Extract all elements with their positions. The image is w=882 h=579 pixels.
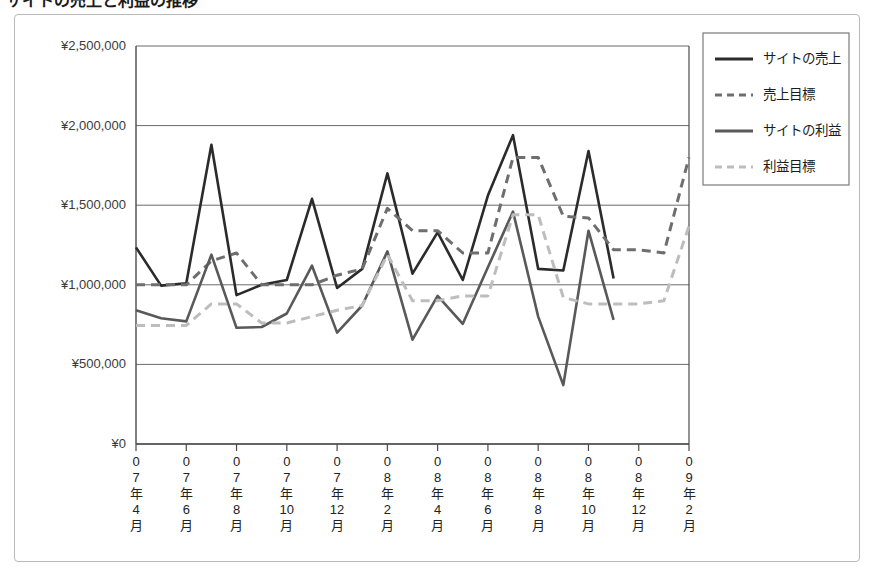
x-axis-tick-label-char: 0 [283,454,290,469]
x-axis-tick-label-char: 8 [384,470,391,485]
x-axis-tick-label-char: 年 [331,486,344,501]
x-axis-tick-label-char: 4 [434,502,441,517]
x-axis-tick-label-char: 10 [280,502,294,517]
x-axis-tick-label-char: 年 [532,486,545,501]
x-axis-tick-label-char: 月 [582,518,595,533]
page-title: サイトの売上と利益の推移 [6,0,198,11]
x-axis-tick-label-char: 0 [384,454,391,469]
x-axis-tick-label-char: 年 [130,486,143,501]
x-axis-tick-label-char: 12 [631,502,645,517]
x-axis-tick-label-char: 0 [685,454,692,469]
x-axis-tick-label-char: 0 [535,454,542,469]
legend-label-1: 売上目標 [763,87,816,102]
y-axis-tick-label: ¥0 [111,436,126,451]
x-axis-tick-label-char: 10 [581,502,595,517]
x-axis-tick-label-char: 2 [685,502,692,517]
y-axis-tick-label: ¥1,500,000 [60,197,126,212]
x-axis-tick-label-char: 0 [183,454,190,469]
x-axis-tick-label-char: 9 [685,470,692,485]
legend-label-0: サイトの売上 [763,51,841,66]
x-axis-tick-label: 08年12月 [631,454,645,533]
x-axis-tick-label-char: 7 [233,470,240,485]
x-axis-tick-label-char: 年 [280,486,293,501]
x-axis-tick-label-char: 月 [280,518,293,533]
x-axis-tick-label-char: 年 [683,486,696,501]
x-axis-tick-label: 09年2月 [683,454,696,533]
y-axis-tick-label: ¥500,000 [71,356,126,371]
x-axis-tick-label: 07年12月 [330,454,344,533]
x-axis-tick-label-char: 7 [333,470,340,485]
series-line-1 [136,157,689,284]
x-axis-tick-label-char: 年 [481,486,494,501]
x-axis-tick-label-char: 8 [484,470,491,485]
x-axis-tick-label-char: 年 [431,486,444,501]
x-axis-tick-label-char: 月 [230,518,243,533]
x-axis-tick-label-char: 0 [434,454,441,469]
x-axis-tick-label-char: 2 [384,502,391,517]
x-axis-tick-label-char: 7 [283,470,290,485]
line-chart: ¥0¥500,000¥1,000,000¥1,500,000¥2,000,000… [15,15,861,563]
x-axis-tick-label-char: 12 [330,502,344,517]
x-axis-tick-label-char: 8 [535,470,542,485]
legend-label-2: サイトの利益 [763,123,841,138]
legend-label-3: 利益目標 [763,159,816,174]
x-axis-tick-label-char: 7 [183,470,190,485]
x-axis-tick-label-char: 0 [132,454,139,469]
x-axis-tick-label-char: 8 [233,502,240,517]
x-axis-tick-label-char: 月 [481,518,494,533]
x-axis-tick-label-char: 年 [632,486,645,501]
x-axis-tick-label-char: 月 [130,518,143,533]
x-axis-tick-label: 07年4月 [130,454,143,533]
x-axis-tick-label-char: 年 [582,486,595,501]
x-axis-tick-label-char: 8 [535,502,542,517]
x-axis-tick-label: 07年10月 [280,454,294,533]
x-axis-tick-label-char: 6 [183,502,190,517]
clipped-title-strip: サイトの売上と利益の推移 [0,0,882,13]
x-axis-tick-label: 08年6月 [481,454,494,533]
x-axis-tick-label-char: 4 [132,502,139,517]
x-axis-tick-label-char: 月 [180,518,193,533]
x-axis-tick-label: 08年4月 [431,454,444,533]
series-line-0 [136,135,614,295]
x-axis-tick-label-char: 月 [331,518,344,533]
x-axis-tick-label-char: 7 [132,470,139,485]
x-axis-tick-label-char: 年 [180,486,193,501]
x-axis-tick-label-char: 0 [635,454,642,469]
x-axis-tick-label: 08年8月 [532,454,545,533]
x-axis-tick-label-char: 0 [333,454,340,469]
x-axis-tick-label-char: 月 [683,518,696,533]
y-axis-tick-label: ¥2,500,000 [60,38,126,53]
x-axis-tick-label-char: 月 [381,518,394,533]
x-axis-tick-label-char: 月 [431,518,444,533]
x-axis-tick-label: 08年10月 [581,454,595,533]
x-axis-tick-label-char: 年 [381,486,394,501]
x-axis-tick-label-char: 0 [484,454,491,469]
y-axis-tick-label: ¥2,000,000 [60,118,126,133]
x-axis-tick-label-char: 6 [484,502,491,517]
x-axis-tick-label-char: 0 [233,454,240,469]
chart-card: ¥0¥500,000¥1,000,000¥1,500,000¥2,000,000… [14,14,860,562]
x-axis-tick-label-char: 0 [585,454,592,469]
x-axis-tick-label: 07年6月 [180,454,193,533]
x-axis-tick-label-char: 8 [434,470,441,485]
x-axis-tick-label: 08年2月 [381,454,394,533]
x-axis-tick-label-char: 8 [585,470,592,485]
x-axis-tick-label-char: 8 [635,470,642,485]
x-axis-tick-label-char: 月 [532,518,545,533]
y-axis-tick-label: ¥1,000,000 [60,277,126,292]
x-axis-tick-label: 07年8月 [230,454,243,533]
x-axis-tick-label-char: 年 [230,486,243,501]
x-axis-tick-label-char: 月 [632,518,645,533]
